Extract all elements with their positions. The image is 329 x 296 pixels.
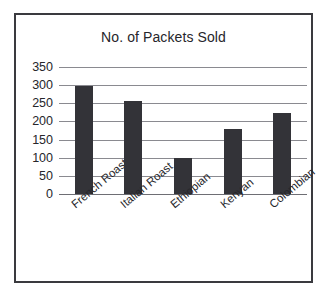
y-axis-tick-label: 250 xyxy=(19,96,53,110)
y-axis-tick-label: 0 xyxy=(19,187,53,201)
y-axis-tick-label: 150 xyxy=(19,133,53,147)
y-axis-tick-label: 300 xyxy=(19,78,53,92)
bar[interactable] xyxy=(75,86,93,194)
gridline-150 xyxy=(59,140,307,141)
gridline-200 xyxy=(59,121,307,122)
gridline-250 xyxy=(59,103,307,104)
plot-area: 050100150200250300350French RoastItalian… xyxy=(59,67,307,194)
chart-title: No. of Packets Sold xyxy=(16,29,311,45)
gridline-300 xyxy=(59,85,307,86)
y-axis-tick-label: 350 xyxy=(19,60,53,74)
y-axis-tick-label: 50 xyxy=(19,169,53,183)
bar[interactable] xyxy=(124,101,142,194)
gridline-350 xyxy=(59,67,307,68)
y-axis-tick-label: 200 xyxy=(19,114,53,128)
chart-frame: No. of Packets Sold 05010015020025030035… xyxy=(14,13,313,283)
y-axis-tick-label: 100 xyxy=(19,151,53,165)
